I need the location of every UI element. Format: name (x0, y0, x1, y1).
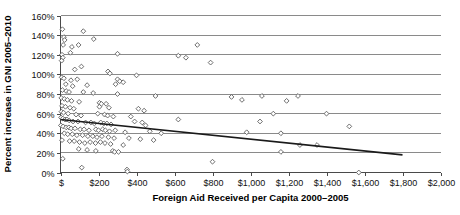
data-point (284, 98, 289, 103)
data-point (195, 43, 200, 48)
data-point (85, 134, 90, 139)
y-tick-label-0: 0% (41, 169, 54, 179)
data-point (112, 136, 117, 141)
data-point (103, 141, 108, 146)
data-point (113, 82, 118, 87)
data-point (229, 95, 234, 100)
data-point (151, 138, 156, 143)
data-point (115, 51, 120, 56)
data-point (70, 84, 75, 89)
data-point (132, 119, 137, 124)
data-point (176, 117, 181, 122)
data-point (113, 128, 118, 133)
data-point (244, 130, 249, 135)
data-point (72, 67, 77, 72)
x-tick-label-1000: $1,000 (238, 178, 266, 188)
data-point (106, 135, 111, 140)
x-tick-label-400: $400 (127, 178, 147, 188)
data-point (136, 106, 141, 111)
data-point (79, 64, 84, 69)
data-point (69, 78, 74, 83)
x-tick-label-0: $ (59, 178, 64, 188)
data-point (61, 43, 66, 48)
x-tick-label-2000: $2,000 (428, 178, 456, 188)
data-point (138, 137, 143, 142)
data-point (87, 128, 92, 133)
data-point (60, 156, 65, 161)
data-point (79, 165, 84, 170)
data-point (91, 37, 96, 42)
scatter-chart: $$200$400$600$800$1,000$1,200$1,400$1,60… (0, 0, 460, 215)
data-point (85, 83, 90, 88)
data-point (347, 124, 352, 129)
data-point (95, 135, 100, 140)
data-point (76, 43, 81, 48)
data-point (75, 77, 80, 82)
data-point (72, 139, 77, 144)
x-tick-label-1400: $1,400 (314, 178, 342, 188)
data-point (104, 101, 109, 106)
data-point (82, 141, 87, 146)
data-point (73, 126, 78, 131)
data-point (95, 111, 100, 116)
y-ticks: 0%20%40%60%80%100%120%140%160% (31, 12, 60, 179)
data-point (69, 98, 74, 103)
data-point (74, 112, 79, 117)
data-point (77, 140, 82, 145)
data-point (93, 141, 98, 146)
y-tick-label-60: 60% (36, 110, 54, 120)
data-point (121, 143, 126, 148)
data-point (85, 148, 90, 153)
data-point (91, 91, 96, 96)
data-point (108, 142, 113, 147)
x-tick-label-1600: $1,600 (352, 178, 380, 188)
y-axis-title: Percent increase in GNI 2005–2010 (2, 16, 13, 173)
y-tick-label-120: 120% (31, 51, 54, 61)
data-point (107, 105, 112, 110)
data-point (81, 29, 86, 34)
x-tick-label-600: $600 (165, 178, 185, 188)
data-point (98, 140, 103, 145)
data-point (70, 132, 75, 137)
x-tick-label-1800: $1,800 (390, 178, 418, 188)
data-point (128, 114, 133, 119)
data-point (77, 99, 82, 104)
data-point (115, 92, 120, 97)
data-point (159, 131, 164, 136)
x-ticks: $$200$400$600$800$1,000$1,200$1,400$1,60… (59, 173, 455, 189)
data-point (271, 111, 276, 116)
data-point (176, 53, 181, 58)
data-point (240, 97, 245, 102)
data-point (356, 170, 361, 175)
data-point (116, 149, 121, 154)
data-point (208, 60, 213, 65)
y-tick-label-160: 160% (31, 12, 54, 22)
data-point (70, 45, 75, 50)
data-point (324, 111, 329, 116)
data-point (82, 127, 87, 132)
data-point (210, 159, 215, 164)
y-tick-label-20: 20% (36, 149, 54, 159)
y-tick-label-80: 80% (36, 90, 54, 100)
y-tick-label-40: 40% (36, 129, 54, 139)
y-tick-label-140: 140% (31, 31, 54, 41)
data-point (279, 131, 284, 136)
data-point (134, 73, 139, 78)
data-point (127, 136, 132, 141)
data-point (63, 82, 68, 87)
data-point (279, 149, 284, 154)
data-point (66, 111, 71, 116)
data-point (111, 114, 116, 119)
data-point (100, 134, 105, 139)
y-tick-label-100: 100% (31, 70, 54, 80)
data-point (90, 134, 95, 139)
chart-canvas: $$200$400$600$800$1,000$1,200$1,400$1,60… (0, 0, 460, 215)
data-point (142, 108, 147, 113)
x-axis-title: Foreign Aid Received per Capita 2000–200… (152, 192, 349, 203)
x-tick-label-200: $200 (89, 178, 109, 188)
data-point (123, 130, 128, 135)
data-point (88, 140, 93, 145)
x-tick-label-800: $800 (203, 178, 223, 188)
data-point (258, 119, 263, 124)
x-tick-label-1200: $1,200 (276, 178, 304, 188)
